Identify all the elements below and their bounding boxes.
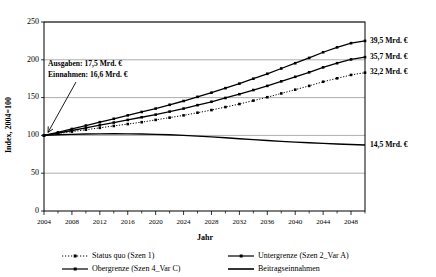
y-axis-tick-labels: 050100150200250: [27, 17, 39, 215]
x-tick-label: 2008: [65, 218, 80, 226]
x-tick-label: 2048: [344, 218, 359, 226]
annotation-callout: Ausgaben: 17,5 Mrd. €Einnahmen: 16,6 Mrd…: [48, 59, 128, 132]
end-label-2: 32,2 Mrd. €: [370, 67, 408, 76]
annotation-line-2: Einnahmen: 16,6 Mrd. €: [48, 70, 128, 79]
legend-label: Untergrenze (Szen 2_Var A): [258, 251, 349, 260]
y-tick-label: 200: [27, 55, 39, 64]
x-tick-label: 2004: [37, 218, 52, 226]
y-tick-label: 150: [27, 92, 39, 101]
x-axis-title: Jahr: [197, 233, 213, 242]
y-tick-label: 0: [35, 206, 39, 215]
chart-container: 050100150200250 200420082012201620202024…: [0, 0, 436, 277]
legend-label: Obergrenze (Szen 4_Var C): [92, 264, 181, 273]
annotation-line-1: Ausgaben: 17,5 Mrd. €: [48, 59, 122, 68]
legend-item: Untergrenze (Szen 2_Var A): [228, 251, 349, 260]
series-0: [43, 40, 367, 137]
end-label-1: 35,7 Mrd. €: [370, 52, 408, 61]
legend-item: Beitragseinnahmen: [228, 264, 320, 273]
plot-frame: [44, 22, 365, 211]
x-axis-ticks: [44, 211, 365, 215]
end-label-0: 39,5 Mrd. €: [370, 36, 408, 45]
x-tick-label: 2028: [204, 218, 219, 226]
x-tick-label: 2044: [316, 218, 331, 226]
legend-label: Beitragseinnahmen: [258, 264, 320, 273]
end-label-3: 14,5 Mrd. €: [370, 140, 408, 149]
y-tick-label: 250: [27, 17, 39, 26]
y-tick-label: 50: [31, 168, 39, 177]
x-axis-tick-labels: 2004200820122016202020242028203220362040…: [37, 218, 359, 226]
y-axis-title: Index, 2004=100: [4, 97, 13, 153]
legend-item: Status quo (Szen 1): [62, 251, 155, 260]
x-tick-label: 2012: [93, 218, 108, 226]
gridlines: [44, 22, 365, 173]
annotation-arrow: [48, 82, 76, 132]
legend: Status quo (Szen 1)Untergrenze (Szen 2_V…: [62, 251, 349, 273]
x-tick-label: 2036: [260, 218, 275, 226]
x-tick-label: 2024: [177, 218, 192, 226]
x-tick-label: 2040: [288, 218, 303, 226]
legend-item: Obergrenze (Szen 4_Var C): [62, 264, 181, 273]
x-tick-label: 2016: [121, 218, 136, 226]
x-tick-label: 2032: [232, 218, 247, 226]
legend-label: Status quo (Szen 1): [92, 251, 155, 260]
y-tick-label: 100: [27, 130, 39, 139]
data-series: [43, 40, 367, 145]
x-tick-label: 2020: [149, 218, 164, 226]
series-end-labels: 39,5 Mrd. €35,7 Mrd. €32,2 Mrd. €14,5 Mr…: [370, 36, 408, 149]
line-chart: 050100150200250 200420082012201620202024…: [0, 0, 436, 277]
